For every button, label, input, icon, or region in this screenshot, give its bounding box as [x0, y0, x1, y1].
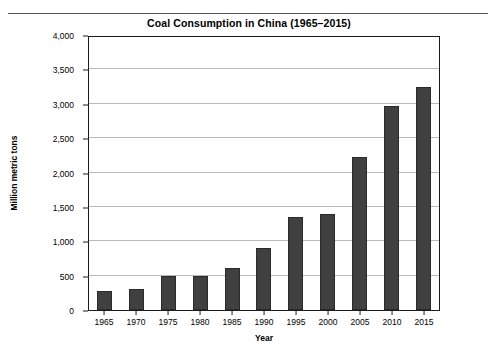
x-axis-tick: 1985 — [223, 311, 242, 327]
bar[interactable] — [97, 291, 112, 310]
plot-area — [88, 36, 440, 311]
x-axis-tick-label: 2015 — [415, 317, 434, 327]
x-axis-tick-mark — [199, 311, 200, 315]
x-axis-tick-mark — [391, 311, 392, 315]
x-axis-tick-mark — [231, 311, 232, 315]
y-axis-tick-group: 05001,0001,5002,0002,5003,0003,5004,000 — [0, 0, 88, 354]
y-axis-tick-label: 0 — [69, 306, 74, 316]
y-axis-tick-label: 3,000 — [53, 100, 74, 110]
bar[interactable] — [161, 276, 176, 310]
x-axis-tick-mark — [135, 311, 136, 315]
x-axis-tick-label: 2005 — [351, 317, 370, 327]
x-axis-tick-label: 1965 — [95, 317, 114, 327]
x-axis-tick-label: 1990 — [255, 317, 274, 327]
x-axis-tick-mark — [167, 311, 168, 315]
bar-slot — [184, 37, 216, 310]
x-axis-tick: 2000 — [319, 311, 338, 327]
x-axis-tick-mark — [327, 311, 328, 315]
x-axis-tick-label: 2010 — [383, 317, 402, 327]
bar[interactable] — [288, 217, 303, 311]
bar-slot — [375, 37, 407, 310]
x-axis-tick-label: 1975 — [159, 317, 178, 327]
x-axis-tick-label: 1970 — [127, 317, 146, 327]
y-axis-tick-label: 500 — [60, 272, 74, 282]
x-axis-tick-mark — [423, 311, 424, 315]
bar-slot — [216, 37, 248, 310]
x-axis-tick: 2010 — [383, 311, 402, 327]
x-axis-tick: 2005 — [351, 311, 370, 327]
bar-slot — [280, 37, 312, 310]
bar[interactable] — [416, 87, 431, 310]
bar-series — [89, 37, 439, 310]
bar-slot — [121, 37, 153, 310]
bar[interactable] — [384, 106, 399, 310]
y-axis-tick-label: 3,500 — [53, 65, 74, 75]
bar-slot — [312, 37, 344, 310]
y-axis-tick-label: 1,000 — [53, 237, 74, 247]
x-axis-tick: 1995 — [287, 311, 306, 327]
bar-slot — [248, 37, 280, 310]
x-axis-tick-label: 1980 — [191, 317, 210, 327]
bar[interactable] — [256, 248, 271, 310]
bar[interactable] — [129, 289, 144, 310]
x-axis-tick: 2015 — [415, 311, 434, 327]
y-axis-tick-label: 4,000 — [53, 31, 74, 41]
bar[interactable] — [193, 276, 208, 310]
x-axis-tick: 1990 — [255, 311, 274, 327]
y-axis-tick-label: 1,500 — [53, 203, 74, 213]
bar-slot — [344, 37, 376, 310]
bar[interactable] — [352, 157, 367, 310]
x-axis-tick: 1970 — [127, 311, 146, 327]
bar-slot — [407, 37, 439, 310]
x-axis-tick-label: 2000 — [319, 317, 338, 327]
bar[interactable] — [225, 268, 240, 310]
x-axis-tick-mark — [103, 311, 104, 315]
y-axis-tick-label: 2,500 — [53, 134, 74, 144]
x-axis-tick: 1980 — [191, 311, 210, 327]
bar[interactable] — [320, 214, 335, 310]
x-axis-tick-label: 1985 — [223, 317, 242, 327]
x-axis-tick-mark — [359, 311, 360, 315]
x-axis-tick: 1965 — [95, 311, 114, 327]
bar-chart-figure: Coal Consumption in China (1965–2015) Mi… — [0, 0, 498, 354]
x-axis-tick-mark — [295, 311, 296, 315]
bar-slot — [153, 37, 185, 310]
x-axis-title: Year — [88, 333, 440, 343]
x-axis-tick-label: 1995 — [287, 317, 306, 327]
x-axis-tick-mark — [263, 311, 264, 315]
bar-slot — [89, 37, 121, 310]
y-axis-tick-label: 2,000 — [53, 169, 74, 179]
x-axis-tick: 1975 — [159, 311, 178, 327]
